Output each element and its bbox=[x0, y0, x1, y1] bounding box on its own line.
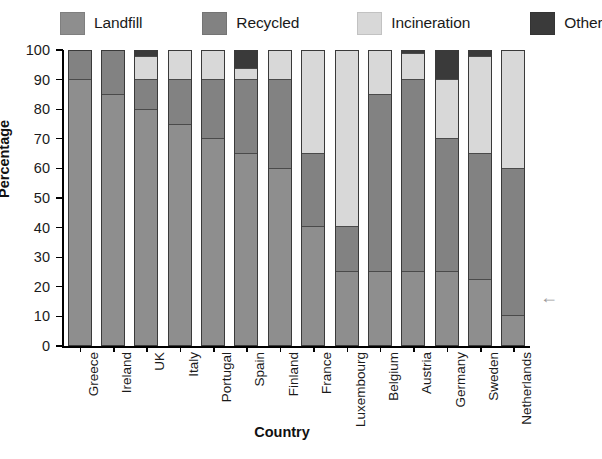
y-tick-label: 30 bbox=[34, 250, 50, 265]
bar-segment-landfill bbox=[102, 95, 124, 345]
x-tick-label-sweden: Sweden bbox=[486, 352, 501, 401]
x-tick-label-france: France bbox=[319, 352, 334, 394]
bar-group bbox=[63, 50, 530, 346]
y-tick-label: 20 bbox=[34, 280, 50, 295]
legend-item-landfill: Landfill bbox=[60, 12, 142, 35]
y-tick-mark bbox=[56, 49, 63, 50]
bar-segment-incineration bbox=[202, 51, 224, 80]
bar-segment-recycled bbox=[202, 80, 224, 139]
bar-segment-recycled bbox=[469, 154, 491, 280]
bar-segment-landfill bbox=[369, 272, 391, 346]
bar-segment-recycled bbox=[102, 51, 124, 95]
x-tick-label-italy: Italy bbox=[186, 352, 201, 377]
bar-segment-recycled bbox=[169, 80, 191, 124]
bar-segment-landfill bbox=[135, 110, 157, 345]
x-tick-label-finland: Finland bbox=[286, 352, 301, 396]
bar-segment-recycled bbox=[135, 80, 157, 109]
x-tick-label-austria: Austria bbox=[419, 352, 434, 394]
y-tick-label: 10 bbox=[34, 309, 50, 324]
legend-label: Incineration bbox=[391, 14, 470, 32]
bar-italy bbox=[168, 50, 192, 346]
y-tick-mark bbox=[56, 257, 63, 258]
bar-segment-incineration bbox=[436, 80, 458, 139]
bar-segment-incineration bbox=[369, 51, 391, 95]
bar-segment-other bbox=[436, 51, 458, 80]
bar-segment-recycled bbox=[502, 169, 524, 316]
y-tick-label: 40 bbox=[34, 220, 50, 235]
bar-germany bbox=[435, 50, 459, 346]
bar-uk bbox=[134, 50, 158, 346]
legend-swatch-other bbox=[530, 12, 555, 35]
x-tick-label-belgium: Belgium bbox=[386, 352, 401, 401]
bar-segment-landfill bbox=[302, 227, 324, 345]
legend-label: Recycled bbox=[236, 14, 299, 32]
bar-segment-other bbox=[235, 51, 257, 69]
bar-segment-recycled bbox=[69, 51, 91, 80]
bar-greece bbox=[68, 50, 92, 346]
bar-belgium bbox=[368, 50, 392, 346]
bar-segment-incineration bbox=[135, 57, 157, 81]
bar-luxembourg bbox=[335, 50, 359, 346]
legend-item-incineration: Incineration bbox=[357, 12, 470, 35]
y-axis-tick-labels: 0102030405060708090100 bbox=[0, 50, 58, 346]
bar-segment-landfill bbox=[202, 139, 224, 345]
bar-segment-incineration bbox=[469, 57, 491, 154]
bar-segment-recycled bbox=[336, 227, 358, 271]
bar-segment-incineration bbox=[269, 51, 291, 80]
y-tick-mark bbox=[56, 227, 63, 228]
bar-segment-recycled bbox=[269, 80, 291, 168]
x-tick-label-germany: Germany bbox=[453, 352, 468, 408]
x-tick-label-portugal: Portugal bbox=[219, 352, 234, 402]
x-axis-title: Country bbox=[0, 424, 564, 440]
bar-austria bbox=[401, 50, 425, 346]
y-tick-mark bbox=[56, 316, 63, 317]
bar-segment-landfill bbox=[269, 169, 291, 345]
y-tick-label: 50 bbox=[34, 191, 50, 206]
bar-segment-landfill bbox=[469, 280, 491, 345]
y-tick-mark bbox=[56, 197, 63, 198]
bar-ireland bbox=[101, 50, 125, 346]
bar-segment-landfill bbox=[169, 125, 191, 346]
bar-segment-incineration bbox=[502, 51, 524, 169]
legend-item-other: Other bbox=[530, 12, 602, 35]
bar-france bbox=[301, 50, 325, 346]
bar-segment-recycled bbox=[402, 80, 424, 271]
bar-segment-landfill bbox=[69, 80, 91, 345]
left-arrow-icon: ← bbox=[540, 288, 558, 306]
x-tick-label-spain: Spain bbox=[252, 352, 267, 387]
bar-segment-landfill bbox=[502, 316, 524, 345]
y-tick-mark bbox=[56, 345, 63, 346]
y-tick-mark bbox=[56, 168, 63, 169]
bar-sweden bbox=[468, 50, 492, 346]
y-tick-mark bbox=[56, 79, 63, 80]
bar-segment-landfill bbox=[336, 272, 358, 346]
bar-segment-landfill bbox=[402, 272, 424, 346]
bar-spain bbox=[234, 50, 258, 346]
bar-segment-incineration bbox=[235, 69, 257, 81]
bar-segment-incineration bbox=[336, 51, 358, 227]
legend-label: Other bbox=[564, 14, 602, 32]
x-tick-label-netherlands: Netherlands bbox=[519, 352, 534, 425]
y-tick-mark bbox=[56, 138, 63, 139]
y-tick-label: 60 bbox=[34, 161, 50, 176]
bar-finland bbox=[268, 50, 292, 346]
bar-segment-recycled bbox=[302, 154, 324, 228]
bar-segment-incineration bbox=[402, 54, 424, 80]
bar-segment-recycled bbox=[436, 139, 458, 271]
bar-segment-recycled bbox=[235, 80, 257, 154]
x-tick-label-uk: UK bbox=[152, 352, 167, 371]
legend-swatch-incineration bbox=[357, 12, 382, 35]
bar-netherlands bbox=[501, 50, 525, 346]
y-tick-label: 90 bbox=[34, 72, 50, 87]
y-tick-mark bbox=[56, 286, 63, 287]
y-tick-mark bbox=[56, 109, 63, 110]
legend-swatch-landfill bbox=[60, 12, 85, 35]
y-tick-label: 70 bbox=[34, 132, 50, 147]
x-tick-label-greece: Greece bbox=[86, 352, 101, 396]
x-tick-label-ireland: Ireland bbox=[119, 352, 134, 393]
y-tick-label: 0 bbox=[42, 339, 50, 354]
bar-segment-landfill bbox=[235, 154, 257, 345]
bar-portugal bbox=[201, 50, 225, 346]
legend-swatch-recycled bbox=[202, 12, 227, 35]
